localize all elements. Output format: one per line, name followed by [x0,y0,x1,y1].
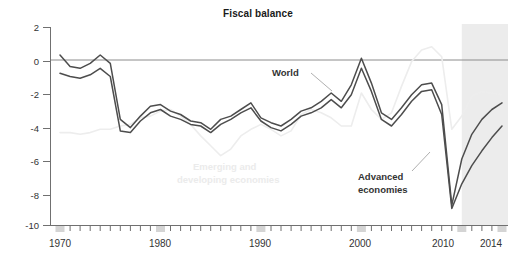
series-annotation-world: World [272,67,299,78]
x-axis-ticks [60,225,502,232]
y-tick-label-minus10: -10 [25,220,39,231]
x-tick-label-2014: 2014 [480,238,503,249]
y-tick-label-minus4: -4 [31,123,39,134]
y-axis-ticks [43,28,50,226]
y-tick-label-minus2: -2 [31,89,39,100]
advanced-label-leader-line [412,152,430,171]
y-tick-label-0: 0 [34,56,39,67]
series-annotation-emerging-line1: Emerging and [193,161,257,172]
series-annotation-emerging-line2: developing economies [177,174,279,185]
y-tick-label-minus8: -8 [31,190,39,201]
series-line-advanced-economies [60,68,502,208]
x-tick-label-2010: 2010 [432,238,455,249]
y-tick-label-2: 2 [34,22,39,33]
fiscal-balance-chart-figure: Fiscal balance 2 0 -2 -4 -6 -8 -10 [0,0,516,270]
series-annotation-advanced-economies-line1: Advanced [358,171,404,182]
x-tick-label-2000: 2000 [349,238,372,249]
x-tick-label-1990: 1990 [249,238,272,249]
series-annotation-advanced-economies-line2: economies [358,184,408,195]
x-tick-label-1970: 1970 [49,238,72,249]
chart-plot-area: 2 0 -2 -4 -6 -8 -10 1970 1980 1990 2000 … [0,0,516,270]
projection-shaded-band [462,24,508,225]
world-label-leader-line [311,73,332,91]
y-tick-label-minus6: -6 [31,156,39,167]
x-tick-label-1980: 1980 [149,238,172,249]
